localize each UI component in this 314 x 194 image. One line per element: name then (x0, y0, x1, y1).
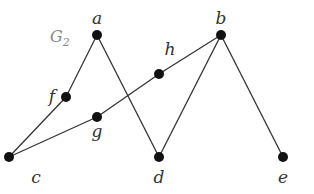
node-label-b: b (216, 8, 227, 28)
edge-b-e (221, 35, 283, 157)
edge-c-g (9, 117, 97, 157)
edge-g-h (97, 74, 159, 117)
node-e (278, 152, 288, 162)
node-label-e: e (278, 167, 288, 187)
edge-a-f (66, 35, 97, 97)
graph-title-subscript: 2 (62, 36, 70, 49)
node-f (61, 92, 71, 102)
graph-title: G2 (50, 27, 70, 49)
graph-diagram: abhfgcde G2 (0, 0, 314, 194)
node-a (92, 30, 102, 40)
graph-title-main: G (50, 27, 63, 46)
node-h (154, 69, 164, 79)
nodes (4, 30, 288, 162)
node-label-f: f (47, 86, 58, 106)
node-label-h: h (165, 39, 176, 59)
node-label-d: d (154, 167, 165, 187)
node-b (216, 30, 226, 40)
node-d (154, 152, 164, 162)
node-label-g: g (92, 121, 103, 141)
node-label-a: a (92, 8, 102, 28)
edge-f-c (9, 97, 66, 157)
node-label-c: c (31, 167, 41, 187)
node-c (4, 152, 14, 162)
